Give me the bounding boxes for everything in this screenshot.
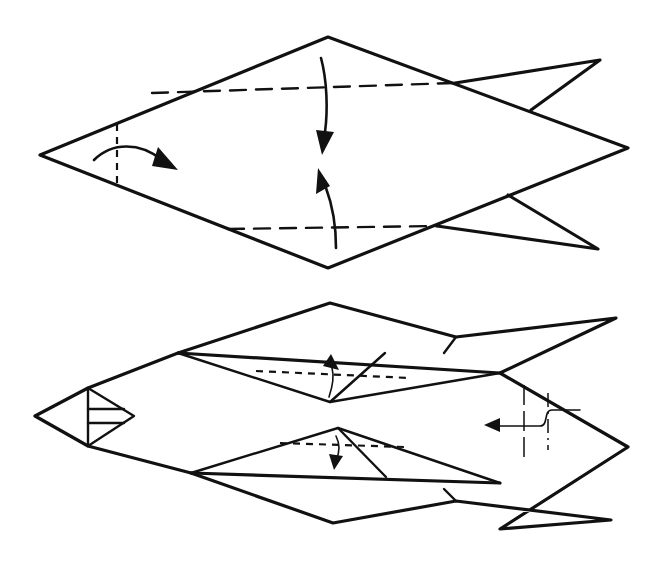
step-2-figure: [35, 303, 628, 529]
step-2-lower-flap-edge: [191, 473, 500, 483]
step-1-fold-up-arrow: [326, 188, 336, 248]
arrowhead-icon: [484, 418, 500, 432]
step-1-nose-fold-arrow: [94, 147, 162, 161]
step-1-bottom-fin: [437, 195, 598, 249]
step-1-fold-down-arrow: [321, 58, 327, 132]
step-2-nose-triangle: [88, 388, 134, 446]
step-2-upper-fold-arrow: [329, 368, 333, 397]
arrowhead-icon: [316, 130, 334, 155]
step-2-upper-fin-inner: [444, 337, 456, 353]
step-1-lower-valley-line: [228, 226, 437, 229]
arrowhead-icon: [329, 454, 343, 470]
origami-fish-diagram: [0, 0, 663, 562]
step-1-top-fin: [455, 60, 600, 110]
step-1-figure: [40, 37, 628, 268]
step-1-diamond-outline: [40, 37, 628, 268]
arrowhead-icon: [152, 147, 178, 170]
step-2-lower-fin-inner: [444, 489, 456, 501]
step-2-outline-upper: [35, 303, 628, 529]
